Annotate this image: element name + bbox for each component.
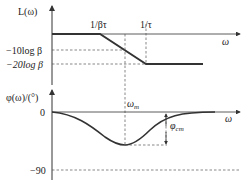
lower-axes: [52, 90, 240, 180]
omega-label-upper: ω: [222, 36, 229, 47]
level-10log-label: −10log β: [6, 45, 42, 56]
phi-axis-label: φ(ω)/(°): [6, 92, 38, 104]
tick-minus-90: −90: [30, 165, 46, 176]
l-axis-label: L(ω): [18, 6, 37, 18]
bode-diagram: L(ω) 1/βτ 1/τ −10log β −20log β ω φ(ω)/(…: [0, 0, 250, 188]
phi-m-label: φcm: [170, 120, 184, 133]
tick-0: 0: [40, 107, 45, 118]
omega-label-lower: ω: [225, 113, 232, 124]
omega-m-label: ωm: [127, 98, 139, 111]
upper-axes: [52, 6, 240, 85]
upper-guides: [52, 24, 146, 145]
magnitude-curve: [52, 34, 203, 64]
breakpoint-1-label: 1/βτ: [90, 19, 107, 30]
breakpoint-2-label: 1/τ: [140, 19, 152, 30]
lower-guides: [52, 117, 240, 170]
level-20log-label: −20log β: [6, 59, 43, 70]
phase-curve: [52, 112, 215, 145]
